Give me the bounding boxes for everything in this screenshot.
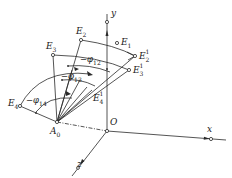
point-e1-marker xyxy=(115,41,118,44)
diagram-canvas xyxy=(0,0,232,178)
x-axis-marker xyxy=(209,137,212,140)
origin-marker xyxy=(105,129,108,132)
angle-phi14-label: −φ14 xyxy=(26,96,47,107)
y-axis-marker xyxy=(105,20,108,23)
pivot-a0-label: A0 xyxy=(50,127,60,138)
point-e4-marker xyxy=(18,104,21,107)
angle-phi13-label: −φ13 xyxy=(61,72,82,83)
origin-label: O xyxy=(110,118,117,127)
point-e3-1-label: E13 xyxy=(133,64,143,77)
z-axis-label: z xyxy=(77,160,82,169)
angle-phi12-label: −φ12 xyxy=(80,55,101,66)
y-axis-label: y xyxy=(111,9,116,18)
point-e1-label: E1 xyxy=(121,38,131,49)
point-e2-marker xyxy=(79,38,82,41)
point-e3-marker xyxy=(51,53,54,56)
point-e3-label: E3 xyxy=(46,42,56,53)
point-e2-label: E2 xyxy=(76,27,86,38)
x-axis-label: x xyxy=(207,125,212,134)
y-axis-arrow-icon xyxy=(106,30,109,36)
pivot-a0-marker xyxy=(55,120,58,123)
point-e3-1-marker xyxy=(127,68,130,71)
point-e2-1-marker xyxy=(133,54,136,57)
point-e2-1-label: E12 xyxy=(139,50,149,63)
a0-to-origin-line xyxy=(57,122,107,131)
point-e4-1-label: E14 xyxy=(93,92,103,105)
point-e4-label: E4 xyxy=(8,99,18,110)
